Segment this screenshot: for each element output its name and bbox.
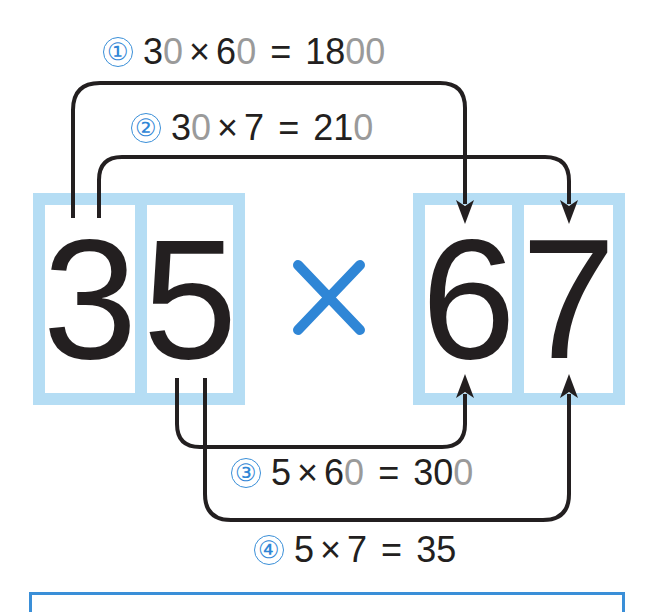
arrow-step-2 xyxy=(99,157,569,218)
eq-digit: 7 xyxy=(347,532,367,568)
eq-result: 21 xyxy=(313,110,353,146)
eq-digit: 5 xyxy=(271,455,291,491)
arrow-step-1 xyxy=(73,83,465,218)
eq-times: × xyxy=(189,34,210,70)
eq-result: 35 xyxy=(416,532,456,568)
arrow-step-3 xyxy=(177,378,465,447)
eq-equals: = xyxy=(270,34,291,70)
eq-placeholder-zero: 0 xyxy=(236,34,256,70)
step-1-badge: ① xyxy=(103,37,133,67)
eq-digit: 6 xyxy=(324,455,344,491)
eq-times: × xyxy=(297,455,318,491)
eq-digit: 3 xyxy=(171,110,191,146)
eq-placeholder-zero: 0 xyxy=(163,34,183,70)
step-3-badge: ③ xyxy=(231,458,261,488)
eq-result: 30 xyxy=(413,455,453,491)
eq-placeholder-zero: 0 xyxy=(191,110,211,146)
eq-times: × xyxy=(320,532,341,568)
eq-placeholder-zero: 0 xyxy=(453,455,473,491)
eq-result: 18 xyxy=(305,34,345,70)
step-2-equation: ② 30 × 7 = 210 xyxy=(131,110,373,146)
step-4-equation: ④ 5 × 7 = 35 xyxy=(254,532,456,568)
eq-equals: = xyxy=(278,110,299,146)
bottom-frame xyxy=(29,592,625,612)
eq-placeholder-zero: 0 xyxy=(344,455,364,491)
step-2-badge: ② xyxy=(131,113,161,143)
eq-equals: = xyxy=(378,455,399,491)
eq-digit: 7 xyxy=(244,110,264,146)
eq-digit: 6 xyxy=(216,34,236,70)
eq-equals: = xyxy=(381,532,402,568)
eq-digit: 5 xyxy=(294,532,314,568)
step-1-equation: ① 30 × 60 = 1800 xyxy=(103,34,385,70)
eq-placeholder-zero: 00 xyxy=(345,34,385,70)
step-3-equation: ③ 5 × 60 = 300 xyxy=(231,455,473,491)
eq-digit: 3 xyxy=(143,34,163,70)
eq-times: × xyxy=(217,110,238,146)
step-4-badge: ④ xyxy=(254,535,284,565)
eq-placeholder-zero: 0 xyxy=(353,110,373,146)
